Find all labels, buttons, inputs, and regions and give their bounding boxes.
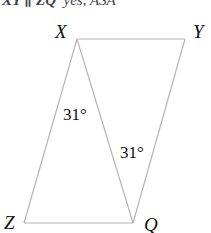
segment-yq [133,39,185,223]
vertex-label-q: Q [144,214,158,233]
angle-label-q: 31° [120,143,144,163]
segment-zx [24,39,77,223]
vertex-label-y: Y [193,21,204,43]
vertex-label-z: Z [4,212,15,233]
angle-label-x: 31° [63,105,87,125]
vertex-label-x: X [55,21,67,43]
quadrilateral-diagram [0,0,211,233]
segment-xq [77,39,133,223]
